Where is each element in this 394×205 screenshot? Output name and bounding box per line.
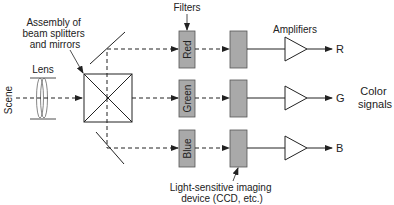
amplifiers-label: Amplifiers — [273, 24, 317, 35]
output-b-label: B — [336, 142, 343, 154]
ccd-pointer — [233, 168, 238, 181]
filter-green-label: Green — [182, 85, 193, 113]
filter-red: Red — [179, 31, 195, 68]
scene-label: Scene — [3, 85, 14, 114]
beam-splitter-prism — [84, 74, 132, 122]
assembly-label: Assembly of beam splitters and mirrors — [22, 17, 87, 50]
ccd-red — [230, 31, 247, 68]
amplifier-green-icon — [285, 86, 307, 110]
color-signals-label: Color signals — [358, 85, 393, 110]
filters-label: Filters — [173, 2, 200, 13]
ccd-label: Light-sensitive imaging device (CCD, etc… — [170, 182, 275, 204]
lens-label: Lens — [32, 64, 54, 75]
amplifier-red-icon — [285, 37, 307, 61]
ccd-blue — [230, 130, 247, 167]
output-g-label: G — [336, 92, 345, 104]
amplifier-blue-icon — [285, 136, 307, 160]
filter-red-label: Red — [182, 40, 193, 58]
output-r-label: R — [336, 43, 344, 55]
filter-blue: Blue — [179, 130, 195, 167]
assembly-pointer — [70, 50, 83, 73]
filter-blue-label: Blue — [182, 138, 193, 158]
camera-color-separation-diagram: Scene Lens Assembly of beam splitters an… — [0, 0, 394, 205]
ccd-green — [230, 80, 247, 117]
filter-green: Green — [179, 80, 195, 117]
